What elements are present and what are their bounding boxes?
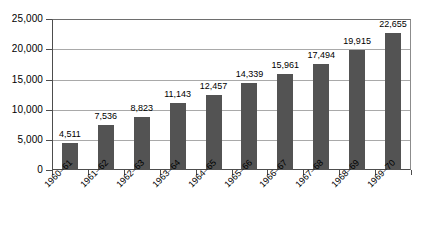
x-axis-tick-label: 1965–66 [223, 158, 254, 189]
x-axis-tick-labels: 1960–61 1961–62 1962–63 1963–64 1964–65 … [0, 0, 424, 231]
x-axis-tick-label: 1968–69 [330, 158, 361, 189]
x-axis-tick-label: 1962–63 [115, 158, 146, 189]
x-axis-tick-label: 1964–65 [187, 158, 218, 189]
x-axis-tick-label: 1963–64 [151, 158, 182, 189]
bar-chart: 25,000 20,000 15,000 10,000 5,000 0 4,51… [0, 0, 424, 231]
x-axis-tick-label: 1960–61 [43, 158, 74, 189]
x-axis-tick-label: 1966–67 [258, 158, 289, 189]
x-axis-tick-label: 1969–70 [366, 158, 397, 189]
x-axis-tick-label: 1967–68 [294, 158, 325, 189]
x-axis-tick-label: 1961–62 [79, 158, 110, 189]
